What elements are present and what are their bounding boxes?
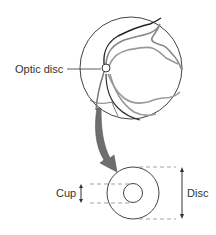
disc-circle bbox=[107, 167, 159, 219]
vessel-lower-light bbox=[108, 74, 180, 103]
vessel-lower-light-2 bbox=[110, 74, 156, 115]
fundus bbox=[80, 17, 182, 120]
vessel-exit bbox=[96, 72, 104, 110]
cup-arrowhead-top bbox=[79, 184, 83, 188]
disc-label: Disc bbox=[187, 187, 209, 199]
disc-arrowhead-top bbox=[180, 167, 184, 172]
enlarged-disc: Disc Cup bbox=[56, 167, 209, 219]
cup-arrowhead-bottom bbox=[79, 199, 83, 203]
cup-circle bbox=[124, 184, 143, 203]
disc-arrowhead-bottom bbox=[180, 214, 184, 219]
cup-label: Cup bbox=[56, 187, 76, 199]
optic-disc-marker bbox=[102, 64, 110, 72]
fundus-outline bbox=[80, 17, 182, 119]
optic-disc-label: Optic disc bbox=[15, 63, 64, 75]
optic-disc-diagram: Optic disc Disc Cup bbox=[0, 0, 216, 235]
pointer-arrow bbox=[95, 108, 117, 172]
